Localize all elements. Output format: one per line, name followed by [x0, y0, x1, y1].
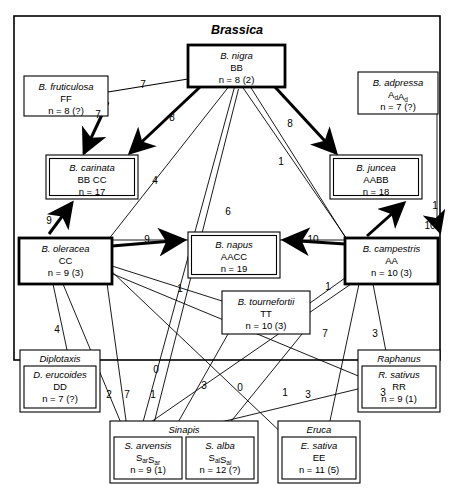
genome-label: DD [53, 381, 67, 392]
genus-name: Raphanus [377, 353, 421, 364]
genome-label: AACC [221, 251, 248, 262]
brassica-crossability-diagram: B. nigraBBn = 8 (2)B. fruticulosaFFn = 8… [0, 0, 454, 495]
species-name: S. arvensis [125, 440, 172, 451]
species-name: B. adpressa [373, 77, 424, 88]
chromosome-count: n = 11 (5) [299, 464, 339, 475]
species-name: B. juncea [356, 162, 396, 173]
species-name: B. tournefortii [238, 296, 295, 307]
genome-label: BB [230, 62, 243, 73]
edge-weight-label: 10 [424, 220, 436, 231]
edge-weight-label: 8 [169, 112, 175, 123]
species-name: E. sativa [301, 440, 337, 451]
node-box-carinata: B. carinataBB CCn = 17 [46, 155, 138, 199]
edge-weight-label: 8 [287, 118, 293, 129]
chromosome-count: n = 7 (?) [380, 101, 416, 112]
edge-weight-label: 7 [322, 328, 328, 339]
edge-weight-label: 10 [307, 234, 319, 245]
outgroup-box-diplotaxis: DiplotaxisD. erucoidesDDn = 7 (?) [20, 350, 100, 412]
edge-weight-label: 4 [152, 175, 158, 186]
edge-weight-label: 1 [325, 281, 331, 292]
chromosome-count: n = 8 (?) [48, 105, 84, 116]
chromosome-count: n = 10 (3) [246, 320, 287, 331]
chromosome-count: n = 10 (3) [371, 267, 412, 278]
species-name: B. nigra [220, 50, 253, 61]
genome-label: BB CC [77, 174, 106, 185]
chromosome-count: n = 8 (2) [219, 74, 255, 85]
node-box-nigra: B. nigraBBn = 8 (2) [188, 45, 285, 87]
genus-name: Eruca [307, 424, 332, 435]
chromosome-count: n = 12 (?) [200, 464, 241, 475]
chromosome-count: n = 7 (?) [42, 393, 78, 404]
crossability-edge [49, 203, 72, 234]
edge-weight-label: 9 [46, 215, 52, 226]
chromosome-count: n = 9 (3) [48, 267, 84, 278]
species-name: R. sativus [378, 369, 420, 380]
genome-label: AABB [363, 174, 388, 185]
edge-weight-label: 3 [305, 389, 311, 400]
diagram-title: Brassica [211, 23, 263, 37]
outgroup-box-raphanus: RaphanusR. sativusRRn = 9 (1) [358, 350, 440, 412]
edge-weight-label: 1 [282, 387, 288, 398]
species-name: S. alba [205, 440, 235, 451]
chromosome-count: n = 17 [79, 186, 106, 197]
genome-label: FF [60, 93, 72, 104]
genome-label: EE [313, 452, 326, 463]
node-box-napus: B. napusAACCn = 19 [188, 232, 280, 278]
chromosome-count: n = 19 [221, 263, 248, 274]
species-name: B. carinata [69, 162, 114, 173]
species-name: B. napus [215, 239, 253, 250]
edge-weight-label: 3 [372, 328, 378, 339]
outgroup-box-eruca: ErucaE. sativaEEn = 11 (5) [278, 421, 360, 483]
species-name: B. oleracea [41, 243, 89, 254]
species-name: B. fruticulosa [39, 81, 94, 92]
edge-weight-label: 0 [237, 382, 243, 393]
node-box-oleracea: B. oleraceaCCn = 9 (3) [19, 238, 112, 284]
crossability-edge [106, 276, 128, 435]
genus-name: Diplotaxis [39, 353, 80, 364]
node-box-tournefortii: B. tournefortiiTTn = 10 (3) [222, 291, 310, 334]
chromosome-count: n = 9 (1) [130, 464, 166, 475]
edge-weight-label: 1 [278, 156, 284, 167]
genome-label: TT [260, 308, 272, 319]
diagram-canvas: B. nigraBBn = 8 (2)B. fruticulosaFFn = 8… [0, 0, 454, 495]
edge-weight-label: 4 [54, 324, 60, 335]
crossability-edge [367, 203, 404, 236]
crossability-edge [275, 87, 336, 153]
edge-weight-label: 2 [106, 389, 112, 400]
crossability-edge [220, 334, 302, 435]
genome-label: AA [385, 255, 398, 266]
genus-name: Sinapis [168, 424, 199, 435]
species-name: D. erucoides [33, 369, 87, 380]
crossability-edge [172, 334, 228, 433]
edge-weight-label: 7 [124, 389, 130, 400]
node-box-campestris: B. campestrisAAn = 10 (3) [345, 238, 438, 284]
crossability-edge [130, 87, 200, 153]
edge-weight-label: 3 [380, 387, 386, 398]
edge-weight-label: 7 [95, 109, 101, 120]
chromosome-count: n = 9 (1) [381, 393, 417, 404]
node-box-juncea: B. junceaAABBn = 18 [330, 155, 422, 199]
species-name: B. campestris [363, 243, 421, 254]
edge-weight-label: 0 [153, 364, 159, 375]
edge-weight-label: 1 [432, 200, 438, 211]
crossability-edge [108, 79, 188, 92]
edge-weight-label: 6 [225, 206, 231, 217]
edge-weight-label: 9 [144, 234, 150, 245]
edge-weight-label: 1 [150, 389, 156, 400]
edge-weight-label: 1 [177, 283, 183, 294]
node-box-adpressa: B. adpressaAdAdn = 7 (?) [358, 72, 438, 114]
outgroup-box-sinapis: SinapisS. arvensisSarSarn = 9 (1)S. alba… [110, 421, 258, 483]
genome-label: CC [59, 255, 73, 266]
edge-weight-label: 7 [140, 79, 146, 90]
edge-weight-label: 3 [201, 380, 207, 391]
genome-label: RR [392, 381, 406, 392]
chromosome-count: n = 18 [363, 186, 390, 197]
